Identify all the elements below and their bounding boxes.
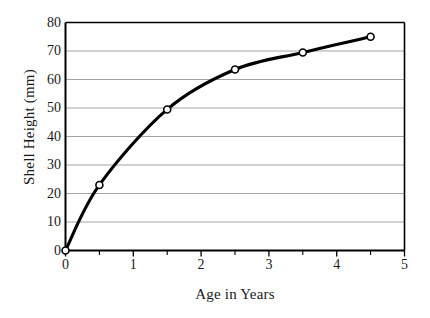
plot-area: [0, 0, 430, 318]
data-point-3.5: [299, 49, 306, 56]
data-markers: [62, 33, 374, 254]
data-point-2.5: [232, 66, 239, 73]
data-point-0: [62, 247, 69, 254]
data-line-shell-height: [66, 37, 371, 251]
chart-figure: Shell Height (mm) 01020304050607080 0123…: [0, 0, 430, 318]
data-point-4.5: [367, 33, 374, 40]
data-point-0.5: [96, 181, 103, 188]
data-point-1.5: [164, 106, 171, 113]
gridlines: [66, 51, 405, 222]
